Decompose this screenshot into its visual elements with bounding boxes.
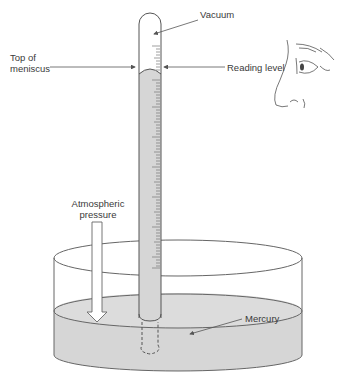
dish (54, 240, 302, 371)
vacuum-label: Vacuum (200, 9, 234, 20)
atmospheric-pressure-label-line1: Atmospheric (70, 198, 126, 209)
atmospheric-pressure-label-line2: pressure (70, 209, 126, 220)
barometer-diagram (0, 0, 337, 387)
top-of-meniscus-label-line1: Top of (10, 52, 36, 63)
top-of-meniscus-label-line2: meniscus (10, 63, 50, 74)
mercury-label: Mercury (245, 313, 279, 324)
observer-eye (275, 40, 334, 108)
reading-level-label: Reading level (227, 62, 285, 73)
